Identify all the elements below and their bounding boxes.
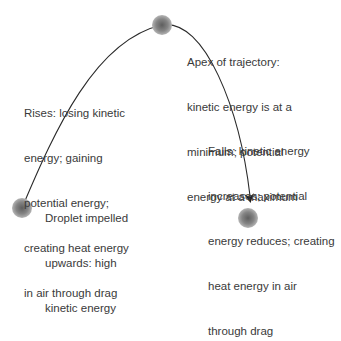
falls-line-1: Falls: kinetic energy bbox=[208, 144, 335, 159]
falls-line-5: through drag bbox=[208, 324, 335, 339]
rises-line-1: Rises: losing kinetic bbox=[24, 106, 129, 121]
falls-line-2: increases; potential bbox=[208, 189, 335, 204]
falls-label: Falls: kinetic energy increases; potenti… bbox=[208, 114, 335, 341]
droplet-apex bbox=[152, 15, 172, 35]
droplet-line-3: kinetic energy bbox=[45, 301, 128, 316]
apex-line-2: kinetic energy is at a bbox=[187, 100, 298, 115]
apex-line-1: Apex of trajectory: bbox=[187, 55, 298, 70]
droplet-label: Droplet impelled upwards: high kinetic e… bbox=[45, 181, 128, 331]
droplet-line-1: Droplet impelled bbox=[45, 211, 128, 226]
falls-line-3: energy reduces; creating bbox=[208, 234, 335, 249]
rises-line-2: energy; gaining bbox=[24, 151, 129, 166]
falls-line-4: heat energy in air bbox=[208, 279, 335, 294]
droplet-line-2: upwards: high bbox=[45, 256, 128, 271]
